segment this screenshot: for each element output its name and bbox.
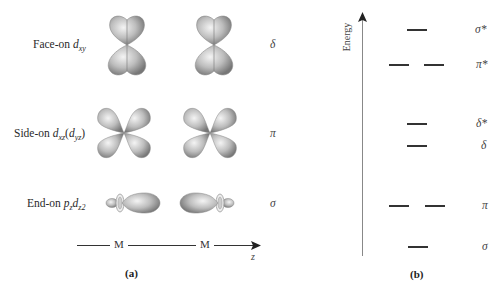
sigma-star-level (407, 29, 427, 31)
dxy-orbital-right (193, 12, 235, 78)
energy-axis-line (362, 16, 363, 256)
orbital-superscript: 2 (81, 203, 85, 212)
orbital-subscript: xz (58, 133, 65, 142)
sigma-label: σ (482, 240, 488, 252)
sigma-star-label: σ* (475, 23, 486, 35)
sigma-bond-label: σ (270, 197, 276, 209)
pi-star-level-2 (424, 64, 444, 66)
z-axis-label: z (251, 251, 255, 262)
delta-level (407, 145, 427, 147)
metal-atom-2: M (196, 238, 214, 250)
delta-star-label: δ* (476, 117, 487, 129)
dz2-orbital-left (106, 190, 162, 216)
pi-star-level-1 (389, 64, 409, 66)
end-on-prefix: End-on (27, 197, 64, 209)
energy-axis-label: Energy (331, 27, 361, 47)
dxz-orbital-right (182, 105, 238, 161)
pi-level-2 (425, 205, 445, 207)
end-on-label: End-on pzdz2 (27, 197, 85, 212)
delta-label: δ (481, 139, 486, 151)
panel-a-caption: (a) (125, 267, 138, 279)
pi-label: π (482, 199, 488, 211)
dxz-orbital-left (96, 105, 152, 161)
face-on-label: Face-on dxy (33, 38, 86, 53)
orbital-subscript: yz (75, 133, 82, 142)
metal-atom-1: M (110, 238, 128, 250)
z-axis-arrowhead-icon (251, 241, 261, 250)
orbital-subscript: xy (79, 44, 86, 53)
dxy-orbital-left (106, 12, 148, 78)
dz2-orbital-right (178, 190, 234, 216)
delta-bond-label: δ (270, 38, 275, 50)
panel-b-caption: (b) (410, 268, 423, 280)
side-on-label: Side-on dxz(dyz) (14, 127, 85, 142)
internuclear-axis-line (77, 245, 255, 246)
sigma-level (408, 246, 428, 248)
side-on-prefix: Side-on (14, 127, 53, 139)
pi-level-1 (389, 205, 409, 207)
delta-star-level (407, 123, 427, 125)
pi-bond-label: π (270, 127, 276, 139)
energy-axis-arrowhead-icon (358, 12, 367, 22)
pi-star-label: π* (476, 58, 488, 70)
face-on-prefix: Face-on (33, 38, 73, 50)
